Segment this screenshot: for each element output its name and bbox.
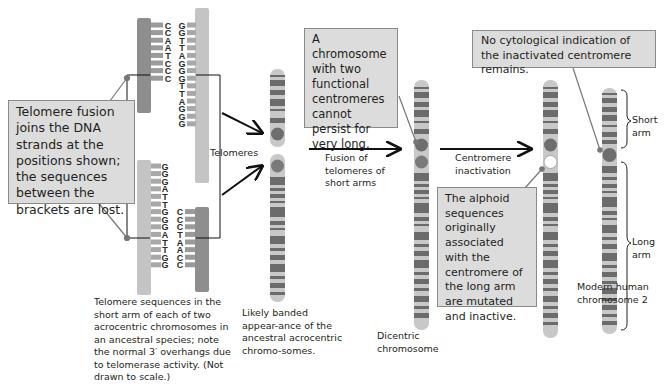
fusion-step-label: Fusion of telomeres of short arms [325,152,385,190]
dna-base: G [178,119,185,129]
dicentric-caption: Dicentric chromosome [377,330,437,355]
telomere-fusion-callout: Telomere fusion joins the DNA strands at… [8,100,135,204]
dicentric-unstable-callout: A chromosome with two functional centrom… [304,28,398,128]
dna-base: G [161,260,168,270]
dna-base: C [165,74,172,84]
top-dna-duplex: CCAATCCC GGTTAGGGTTAGGG [137,8,209,183]
ancestral-caption: Likely banded appear-ance of the ancestr… [242,307,346,357]
dicentric-chromosome [414,80,429,330]
ancestral-chromosomes [270,69,285,302]
telomere-sequences-caption: Telomere sequences in the short arm of e… [94,296,236,384]
short-arm-label: Short arm [632,114,668,139]
arrow-to-upper-chromosome [222,113,262,133]
arrow-to-lower-chromosome [222,166,262,195]
inactivation-step-label: Centromere inactivation [455,152,515,177]
alphoid-callout: The alphoid sequences originally associa… [437,187,537,307]
no-indication-callout: No cytological indication of the inactiv… [472,30,656,68]
modern-caption: Modern human chromosome 2 [577,281,657,306]
long-arm-label: Long arm [632,236,668,261]
inactivated-chromosome [543,80,558,338]
dna-base: C [177,260,184,270]
no-indication-leader [573,68,602,152]
telomeres-label: Telomeres [210,147,258,160]
alphoid-leader [525,167,544,188]
